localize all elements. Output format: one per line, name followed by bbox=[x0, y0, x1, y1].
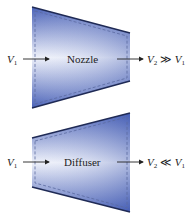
symbol: V bbox=[7, 156, 14, 168]
relation: ≫ bbox=[160, 53, 172, 65]
diffuser-outlet-velocity: V2 ≪ V1 bbox=[147, 156, 185, 172]
subscript: 2 bbox=[154, 59, 158, 67]
ref-subscript: 1 bbox=[181, 162, 185, 170]
diagram-canvas bbox=[0, 0, 193, 224]
relation: ≪ bbox=[160, 156, 172, 168]
ref-subscript: 1 bbox=[181, 59, 185, 67]
diffuser-inlet-velocity: V1 bbox=[7, 156, 17, 172]
symbol: V bbox=[147, 53, 154, 65]
nozzle-label: Nozzle bbox=[67, 53, 98, 65]
symbol: V bbox=[147, 156, 154, 168]
diffuser-label: Diffuser bbox=[64, 156, 100, 168]
subscript: 1 bbox=[14, 59, 18, 67]
subscript: 1 bbox=[14, 162, 18, 170]
nozzle-inlet-velocity: V1 bbox=[7, 53, 17, 69]
nozzle-outlet-velocity: V2 ≫ V1 bbox=[147, 53, 185, 69]
symbol: V bbox=[7, 53, 14, 65]
subscript: 2 bbox=[154, 162, 158, 170]
